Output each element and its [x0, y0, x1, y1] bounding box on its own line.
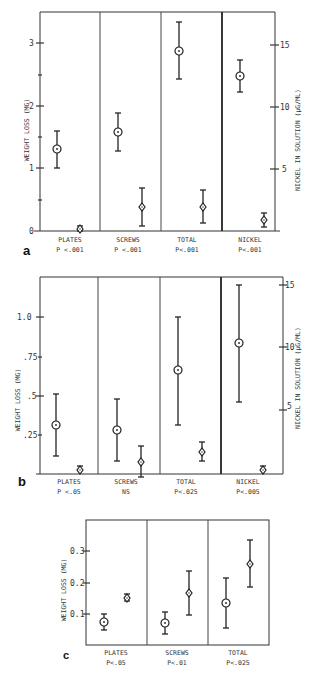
panel-c-plates-points — [100, 594, 130, 630]
svg-text:P<.025: P<.025 — [226, 659, 250, 667]
svg-text:TOTAL: TOTAL — [228, 649, 248, 657]
svg-text:P<.01: P<.01 — [167, 659, 187, 667]
svg-text:P <.05: P <.05 — [57, 488, 81, 496]
panel-c-frame — [86, 520, 269, 645]
svg-text:0.3: 0.3 — [70, 547, 85, 556]
panel-label-c: c — [63, 649, 69, 661]
svg-text:NICKEL: NICKEL — [238, 236, 262, 244]
panel-b-frame — [40, 277, 283, 474]
svg-text:P<.025: P<.025 — [174, 488, 198, 496]
svg-text:0.1: 0.1 — [70, 610, 85, 619]
svg-text:P<.001: P<.001 — [238, 246, 262, 254]
svg-text:15: 15 — [285, 281, 295, 290]
svg-text:10: 10 — [280, 103, 290, 112]
figure: 0 1 2 3 15 10 5 WEIGHT LOSS (MG) NICKEL … — [0, 0, 315, 674]
svg-text:SCREWS: SCREWS — [116, 236, 140, 244]
panel-b-screws-points — [113, 399, 144, 477]
panel-a-screws-points — [114, 113, 145, 226]
panel-c-total-points — [222, 540, 253, 628]
svg-text:0.2: 0.2 — [70, 579, 85, 588]
svg-text:PLATES: PLATES — [58, 236, 82, 244]
panel-c-ylabel: WEIGHT LOSS (MG) — [60, 559, 68, 622]
panel-c-left-ticks: 0.3 0.2 0.1 — [70, 547, 90, 619]
svg-text:1.0: 1.0 — [17, 313, 32, 322]
panel-a-frame — [40, 12, 275, 231]
panel-label-b: b — [18, 474, 26, 489]
panel-c: 0.3 0.2 0.1 WEIGHT LOSS (MG) PLATES P<.0… — [60, 520, 269, 667]
svg-text:P <.001: P <.001 — [56, 246, 83, 254]
svg-text:P <.001: P <.001 — [114, 246, 141, 254]
svg-text:TOTAL: TOTAL — [176, 478, 196, 486]
svg-text:.75: .75 — [23, 353, 38, 362]
panel-a-ylabel: WEIGHT LOSS (MG) — [23, 99, 31, 162]
panel-label-a: a — [23, 243, 31, 258]
svg-text:3: 3 — [29, 39, 34, 48]
panel-a-right-ticks: 15 10 5 — [270, 41, 290, 174]
panel-b: 1.0 .75 .5 .25 15 10 5 WEIGHT LOSS (MG) … — [14, 277, 302, 496]
panel-b-ylabel-right: NICKEL IN SOLUTION (µG/ML) — [294, 327, 302, 429]
panel-b-ylabel: WEIGHT LOSS (MG) — [14, 369, 22, 432]
panel-b-right-ticks: 15 10 5 — [279, 281, 295, 411]
svg-text:NS: NS — [122, 488, 130, 496]
svg-text:PLATES: PLATES — [57, 478, 81, 486]
panel-a: 0 1 2 3 15 10 5 WEIGHT LOSS (MG) NICKEL … — [23, 12, 302, 258]
svg-text:SCREWS: SCREWS — [165, 649, 189, 657]
svg-text:SCREWS: SCREWS — [114, 478, 138, 486]
panel-a-total-points — [175, 22, 206, 223]
svg-text:P<.05: P<.05 — [106, 659, 126, 667]
panel-b-nickel-points — [235, 285, 266, 474]
svg-text:TOTAL: TOTAL — [177, 236, 197, 244]
svg-text:0: 0 — [29, 227, 34, 236]
svg-text:5: 5 — [287, 402, 292, 411]
svg-text:1: 1 — [29, 164, 34, 173]
svg-text:PLATES: PLATES — [104, 649, 128, 657]
svg-text:.25: .25 — [23, 431, 38, 440]
panel-a-ylabel-right: NICKEL IN SOLUTION (µG/ML) — [294, 89, 302, 191]
svg-text:NICKEL: NICKEL — [236, 478, 260, 486]
panel-a-plates-points — [53, 131, 83, 233]
svg-text:15: 15 — [280, 41, 290, 50]
panel-b-plates-points — [52, 394, 83, 474]
panel-a-nickel-points — [236, 60, 267, 227]
panel-a-left-ticks: 0 1 2 3 — [29, 39, 44, 236]
svg-text:.5: .5 — [27, 392, 37, 401]
svg-text:P<.001: P<.001 — [175, 246, 199, 254]
panel-b-total-points — [174, 317, 205, 461]
panel-c-screws-points — [161, 571, 192, 634]
svg-text:5: 5 — [282, 165, 287, 174]
svg-text:P<.005: P<.005 — [236, 488, 260, 496]
